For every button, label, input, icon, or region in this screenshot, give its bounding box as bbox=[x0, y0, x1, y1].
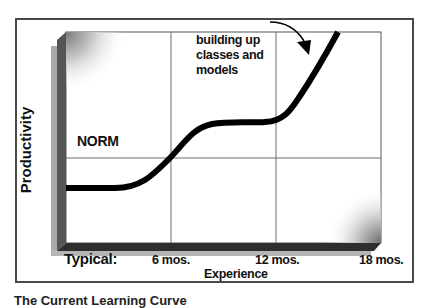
norm-label: NORM bbox=[77, 133, 119, 149]
annotation-text: building up classes and models bbox=[196, 33, 264, 78]
typical-label: Typical: bbox=[64, 250, 117, 267]
annotation-line-3: models bbox=[196, 63, 264, 78]
figure-caption: The Current Learning Curve bbox=[14, 293, 187, 308]
left-wall bbox=[57, 32, 66, 251]
x-tick-12mos: 12 mos. bbox=[255, 253, 299, 267]
x-tick-18mos: 18 mos. bbox=[359, 253, 403, 267]
annotation-line-1: building up bbox=[196, 33, 264, 48]
x-tick-6mos: 6 mos. bbox=[152, 253, 190, 267]
y-axis-label: Productivity bbox=[17, 107, 34, 194]
annotation-line-2: classes and bbox=[196, 48, 264, 63]
x-axis-label: Experience bbox=[204, 267, 268, 281]
